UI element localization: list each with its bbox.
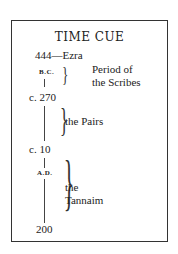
brace-scribes: } (62, 61, 68, 87)
date-c270: c. 270 (29, 91, 56, 103)
period-scribes-line1: Period of (92, 63, 133, 75)
date-444-ezra: 444—Ezra (35, 49, 83, 61)
timeline-line-2 (44, 106, 45, 141)
date-c10: c. 10 (29, 143, 50, 155)
period-tannaim-line1: the (65, 181, 78, 193)
period-tannaim-line2: Tannaim (65, 194, 103, 206)
box-title: TIME CUE (12, 30, 167, 44)
period-pairs: the Pairs (65, 115, 103, 127)
date-200: 200 (36, 223, 53, 235)
time-cue-box: TIME CUE 444—Ezra B.C. } Period of the S… (11, 20, 168, 242)
timeline-line-1 (44, 79, 45, 87)
ad-label: A.D. (37, 169, 53, 177)
timeline-line-3 (44, 158, 45, 168)
bc-label: B.C. (39, 68, 54, 76)
timeline-line-4 (44, 179, 45, 223)
period-scribes-line2: the Scribes (92, 76, 141, 88)
